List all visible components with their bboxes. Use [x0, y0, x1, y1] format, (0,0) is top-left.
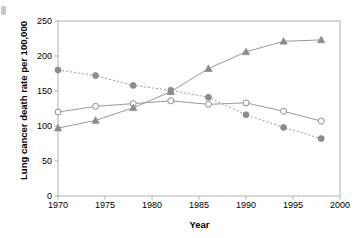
data-point-filled-circle	[205, 94, 211, 100]
data-point-filled-triangle	[205, 65, 212, 71]
y-tick-label-150: 150	[26, 87, 52, 96]
data-point-filled-circle	[281, 124, 287, 130]
data-point-filled-circle	[55, 67, 61, 73]
data-point-filled-circle	[243, 112, 249, 118]
data-point-open-circle	[93, 103, 99, 109]
x-tick-label-2000: 2000	[320, 200, 360, 210]
data-point-open-circle	[243, 100, 249, 106]
data-point-filled-circle	[93, 73, 99, 79]
x-tick-label-1985: 1985	[179, 200, 219, 210]
chart-figure: Lung cancer death rate per 100,000 250 2…	[0, 0, 363, 238]
data-point-open-circle	[168, 98, 174, 104]
y-tick-label-100: 100	[26, 122, 52, 131]
series-line-filled-triangle	[58, 40, 321, 128]
y-tick-label-200: 200	[26, 52, 52, 61]
data-point-open-circle	[55, 109, 61, 115]
data-point-open-circle	[281, 108, 287, 114]
data-point-filled-circle	[130, 82, 136, 88]
corner-artifact-mark	[1, 6, 6, 15]
x-tick-label-1975: 1975	[85, 200, 125, 210]
y-tick-label-250: 250	[26, 17, 52, 26]
x-tick-label-1980: 1980	[132, 200, 172, 210]
x-tick-label-1990: 1990	[226, 200, 266, 210]
data-point-open-circle	[318, 118, 324, 124]
data-point-open-circle	[205, 101, 211, 107]
x-tick-label-1995: 1995	[273, 200, 313, 210]
x-tick-label-1970: 1970	[38, 200, 78, 210]
x-axis-title: Year	[58, 219, 341, 230]
data-point-filled-circle	[318, 136, 324, 142]
plot-frame	[58, 21, 340, 196]
y-tick-label-50: 50	[26, 157, 52, 166]
